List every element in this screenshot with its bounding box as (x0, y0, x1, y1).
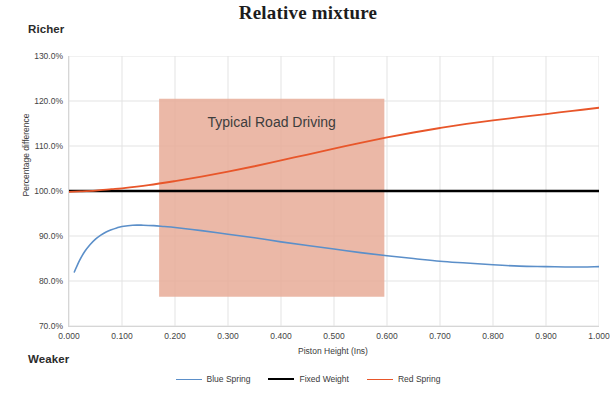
legend-label: Fixed Weight (299, 374, 348, 384)
legend-item[interactable]: Red Spring (367, 374, 441, 384)
legend-line-swatch (176, 379, 202, 380)
legend-line-swatch (268, 378, 294, 380)
x-tick-label: 0.700 (429, 331, 450, 341)
x-tick-label: 1.000 (588, 331, 609, 341)
legend-label: Blue Spring (207, 374, 251, 384)
legend-label: Red Spring (398, 374, 441, 384)
chart-legend: Blue SpringFixed WeightRed Spring (0, 374, 616, 384)
y-tick-label: 90.0% (39, 231, 63, 241)
plot-canvas (69, 56, 599, 326)
x-tick-label: 0.400 (270, 331, 291, 341)
x-tick-label: 0.900 (535, 331, 556, 341)
richer-annotation: Richer (28, 23, 64, 35)
chart-title: Relative mixture (0, 2, 616, 24)
x-tick-label: 0.100 (111, 331, 132, 341)
x-tick-label: 0.800 (482, 331, 503, 341)
x-tick-label: 0.000 (58, 331, 79, 341)
y-tick-label: 80.0% (39, 276, 63, 286)
weaker-annotation: Weaker (28, 353, 69, 365)
y-tick-label: 110.0% (35, 141, 63, 151)
y-tick-label: 70.0% (39, 321, 63, 331)
x-tick-label: 0.600 (376, 331, 397, 341)
legend-item[interactable]: Blue Spring (176, 374, 251, 384)
plot-area: 70.0%80.0%90.0%100.0%110.0%120.0%130.0% … (68, 56, 599, 327)
x-axis-title: Piston Height (Ins) (68, 346, 598, 356)
x-tick-label: 0.200 (164, 331, 185, 341)
y-tick-label: 120.0% (34, 96, 63, 106)
relative-mixture-chart: Relative mixture Richer Weaker Percentag… (0, 0, 616, 394)
legend-line-swatch (367, 379, 393, 380)
typical-road-driving-label: Typical Road Driving (208, 114, 336, 130)
x-tick-label: 0.500 (323, 331, 344, 341)
x-tick-label: 0.300 (217, 331, 238, 341)
y-axis-title: Percentage difference (21, 85, 31, 225)
y-tick-label: 130.0% (34, 51, 63, 61)
y-tick-label: 100.0% (34, 186, 63, 196)
legend-item[interactable]: Fixed Weight (268, 374, 348, 384)
